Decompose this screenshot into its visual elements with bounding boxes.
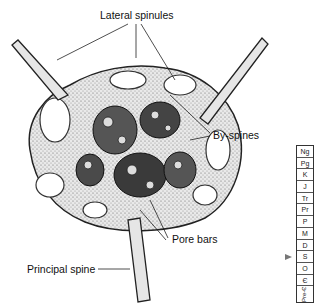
period-cell: Pr — [297, 204, 313, 216]
period-cell: M — [297, 228, 313, 240]
period-cell: Pre-Є — [297, 286, 311, 302]
range-marker-arrow-icon — [285, 254, 292, 260]
label-pore-bars: Pore bars — [172, 234, 218, 245]
label-principal-spine: Principal spine — [27, 264, 95, 275]
label-by-spines: By-spines — [213, 130, 259, 141]
period-cell: D — [297, 240, 313, 252]
period-cell: S — [297, 251, 313, 263]
period-cell: K — [297, 169, 313, 181]
period-cell: O — [297, 263, 313, 275]
label-lateral-spinules: Lateral spinules — [100, 10, 174, 21]
period-cell: Pg — [297, 158, 313, 170]
geologic-time-column: Ng Pg K J Tr Pr P M D S O Є Pre-Є — [296, 145, 314, 303]
period-cell: J — [297, 181, 313, 193]
upper-left-spine — [12, 40, 68, 100]
period-cell: Ng — [297, 146, 313, 158]
period-cell: P — [297, 216, 313, 228]
period-cell: Є — [297, 275, 313, 287]
period-cell: Tr — [297, 193, 313, 205]
radiolarian-illustration — [0, 0, 315, 305]
upper-right-spine — [200, 38, 268, 124]
